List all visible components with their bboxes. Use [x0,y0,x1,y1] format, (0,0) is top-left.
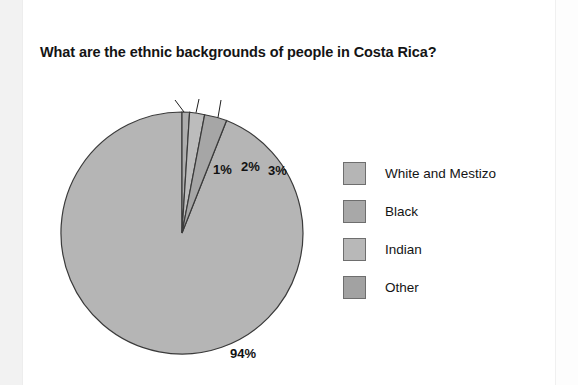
legend-swatch-black [343,200,366,223]
pie-value-label-white-and-mestizo: 94% [230,346,256,361]
page-right-margin [555,0,578,385]
pie-svg [58,76,308,366]
legend-swatch-white-and-mestizo [343,162,366,185]
chart-page: What are the ethnic backgrounds of peopl… [0,0,578,385]
legend-swatch-indian [343,238,366,261]
legend-swatch-other [343,276,366,299]
pie-value-label-black: 1% [213,162,232,177]
legend-item-black[interactable]: Black [343,196,543,226]
chart-legend: White and Mestizo Black Indian Other [343,158,543,310]
chart-title: What are the ethnic backgrounds of peopl… [40,44,436,60]
pie-value-label-indian: 2% [241,159,260,174]
pie-chart: 1% 2% 3% 94% [58,76,308,366]
legend-label-other: Other [385,280,419,295]
legend-item-white-and-mestizo[interactable]: White and Mestizo [343,158,543,188]
legend-item-other[interactable]: Other [343,272,543,302]
legend-label-white-and-mestizo: White and Mestizo [385,166,496,181]
leader-line-3 [218,100,221,118]
page-left-margin [0,0,23,385]
leader-line-2 [196,99,199,113]
leader-line-1 [175,100,184,112]
pie-value-label-other: 3% [268,163,287,178]
pie-slices [61,112,303,354]
legend-label-black: Black [385,204,418,219]
legend-item-indian[interactable]: Indian [343,234,543,264]
legend-label-indian: Indian [385,242,422,257]
